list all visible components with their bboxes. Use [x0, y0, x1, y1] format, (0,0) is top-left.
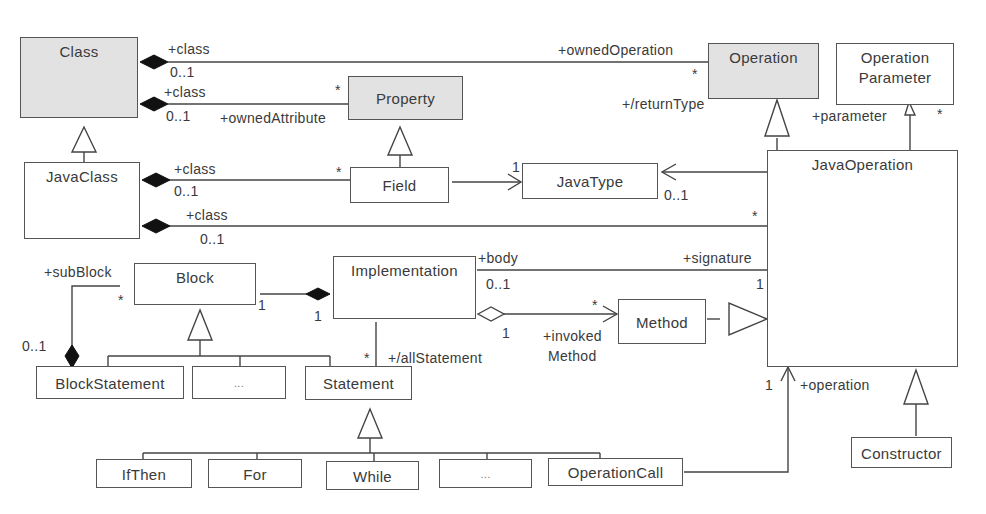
class-name: ... — [440, 464, 531, 483]
class-if-then: IfThen — [96, 459, 192, 488]
multiplicity-label: 1 — [765, 377, 773, 393]
multiplicity-label: 1 — [314, 308, 322, 324]
class-name: Implementation — [334, 257, 475, 280]
multiplicity-label: * — [336, 164, 342, 180]
class-for: For — [208, 459, 302, 488]
class-statement: Statement — [305, 366, 412, 400]
class-ellipsis-2: ... — [439, 459, 532, 488]
class-java-operation: JavaOperation — [767, 150, 958, 367]
class-name: IfThen — [97, 464, 191, 483]
role-label: +class — [168, 41, 210, 57]
class-name: JavaType — [523, 172, 657, 191]
role-label: +/returnType — [622, 96, 705, 112]
role-label: +subBlock — [44, 264, 112, 280]
class-name: While — [327, 466, 418, 485]
class-name: Operation — [709, 44, 818, 67]
class-name: Field — [351, 176, 448, 195]
multiplicity-label: 1 — [258, 297, 266, 313]
class-block: Block — [134, 263, 256, 305]
role-label: +ownedAttribute — [220, 110, 326, 126]
class-name: ... — [193, 373, 285, 392]
role-label: +/allStatement — [388, 350, 482, 366]
class-name: Class — [21, 38, 137, 61]
class-java-type: JavaType — [522, 163, 658, 199]
class-name: JavaOperation — [768, 151, 957, 174]
multiplicity-label: 0..1 — [166, 108, 191, 124]
multiplicity-label: 0..1 — [170, 64, 195, 80]
multiplicity-label: 0..1 — [664, 187, 689, 203]
class-property: Property — [348, 76, 463, 120]
class-while: While — [326, 461, 419, 490]
multiplicity-label: * — [692, 66, 698, 82]
multiplicity-label: 1 — [512, 159, 520, 175]
class-field: Field — [350, 167, 449, 203]
class-operation: Operation — [708, 43, 819, 99]
class-name: Statement — [306, 374, 411, 393]
role-label: Method — [548, 348, 597, 364]
role-label: +ownedOperation — [558, 42, 673, 58]
role-label: +signature — [683, 250, 752, 266]
class-name: Method — [619, 312, 705, 331]
class-operation-parameter: OperationParameter — [836, 43, 954, 105]
class-class: Class — [20, 37, 138, 118]
multiplicity-label: 0..1 — [22, 338, 47, 354]
class-block-statement: BlockStatement — [36, 366, 184, 399]
class-name-line1: Operation — [837, 44, 953, 67]
role-label: +class — [186, 207, 228, 223]
class-implementation: Implementation — [333, 256, 476, 319]
class-operation-call: OperationCall — [548, 458, 683, 486]
multiplicity-label: 0..1 — [174, 183, 199, 199]
class-name: Constructor — [852, 443, 951, 462]
class-name-line2: Parameter — [837, 67, 953, 87]
class-name: JavaClass — [25, 163, 139, 186]
multiplicity-label: * — [364, 350, 370, 366]
class-name: Property — [349, 89, 462, 108]
multiplicity-label: * — [118, 292, 124, 308]
role-label: +class — [164, 84, 206, 100]
class-name: OperationCall — [549, 463, 682, 482]
multiplicity-label: 0..1 — [200, 231, 225, 247]
multiplicity-label: 0..1 — [486, 276, 511, 292]
class-name: BlockStatement — [37, 373, 183, 392]
class-java-class: JavaClass — [24, 162, 140, 239]
multiplicity-label: * — [937, 106, 943, 122]
role-label: +invoked — [543, 328, 602, 344]
role-label: +class — [174, 161, 216, 177]
multiplicity-label: 1 — [756, 276, 764, 292]
multiplicity-label: * — [335, 82, 341, 98]
multiplicity-label: * — [752, 208, 758, 224]
multiplicity-label: * — [592, 297, 598, 313]
class-name: For — [209, 464, 301, 483]
class-constructor: Constructor — [851, 437, 952, 468]
class-name: Block — [135, 264, 255, 287]
class-ellipsis-1: ... — [192, 366, 286, 399]
class-method: Method — [618, 299, 706, 344]
role-label: +parameter — [812, 108, 887, 124]
role-label: +operation — [800, 377, 870, 393]
role-label: +body — [478, 250, 518, 266]
multiplicity-label: 1 — [502, 325, 510, 341]
